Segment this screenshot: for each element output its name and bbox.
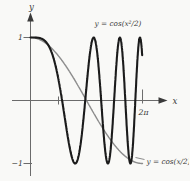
label-leader-line (136, 158, 145, 160)
figure-canvas: y x 1 −1 2π y = cos(x²/2) y = cos(x/2) (0, 0, 189, 181)
tick-label-1: 1 (18, 33, 23, 42)
y-axis-label: y (28, 2, 34, 12)
curve-label-cos-x-squared-over-2: y = cos(x²/2) (94, 19, 142, 28)
y-axis-arrow-icon (27, 13, 34, 22)
tick-label-neg-1: −1 (12, 159, 24, 168)
x-axis-label: x (173, 96, 178, 106)
curve-label-cos-x-over-2: y = cos(x/2) (146, 157, 190, 166)
figure: y x 1 −1 2π y = cos(x²/2) y = cos(x/2) (0, 0, 189, 181)
tick-label-2pi: 2π (137, 108, 149, 117)
x-axis-arrow-icon (159, 97, 168, 104)
